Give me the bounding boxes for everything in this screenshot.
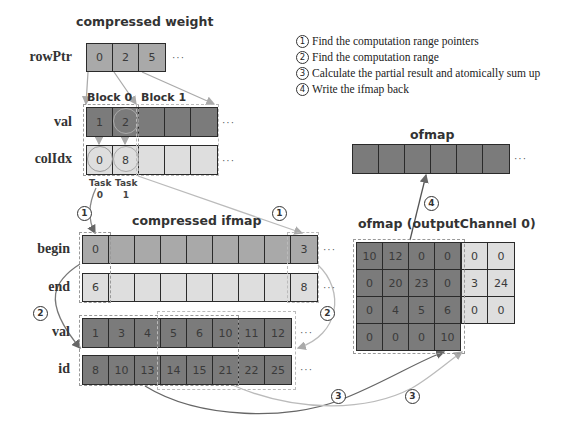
legend-item: 2Find the computation range <box>296 49 540 65</box>
legend-item: 4Write the ifmap back <box>296 81 540 97</box>
ifmap-val-cell: 3 <box>109 319 135 347</box>
compressed-weight-title: compressed weight <box>76 14 213 29</box>
end-label: end <box>10 279 70 295</box>
ofmap-channel-cell: 0 <box>462 297 488 324</box>
step-3-marker-task1: 3 <box>405 389 420 404</box>
end-cell <box>213 274 239 301</box>
step-1-icon: 1 <box>296 35 309 48</box>
weight-val-label: val <box>12 114 72 130</box>
rowptr-label: rowPtr <box>12 49 72 65</box>
step-1-marker-task0: 1 <box>77 206 92 221</box>
legend: 1Find the computation range pointers 2Fi… <box>296 33 540 97</box>
ofmap-cell <box>457 145 483 173</box>
end-cell: 8 <box>291 274 317 301</box>
ofmap-channel-cell: 0 <box>435 243 461 270</box>
ifmap-val-cell: 5 <box>161 319 187 347</box>
ofmap-title: ofmap <box>410 127 454 142</box>
ofmap-channel-cell: 4 <box>383 297 409 324</box>
ofmap-channel-cell: 10 <box>435 324 461 351</box>
ofmap-ellipsis: ··· <box>514 153 527 164</box>
ifmap-val-cell: 12 <box>265 319 291 347</box>
begin-cell <box>135 236 161 263</box>
begin-label: begin <box>10 241 70 257</box>
step-3-marker-task0: 3 <box>331 389 346 404</box>
ifmap-val-cell: 11 <box>239 319 265 347</box>
highlight-circle <box>113 146 139 172</box>
legend-text: Write the ifmap back <box>312 83 409 95</box>
id-array: 8 10 13 14 15 21 22 25 <box>82 355 292 385</box>
ofmap-channel-cell: 23 <box>409 270 435 297</box>
ofmap-channel-cell: 6 <box>435 297 461 324</box>
ofmap-channel-cell: 0 <box>435 270 461 297</box>
legend-text: Find the computation range <box>312 51 439 63</box>
task-0-line1: Task <box>89 178 111 188</box>
ofmap-channel-cell: 12 <box>383 243 409 270</box>
ofmap-channel-title: ofmap (outputChannel 0) <box>358 216 536 231</box>
task-1-label: Task 1 <box>115 178 137 200</box>
id-ellipsis: ··· <box>300 364 313 375</box>
begin-cell <box>213 236 239 263</box>
ofmap-channel-cell: 10 <box>357 243 383 270</box>
ofmap-channel-cell: 24 <box>488 270 514 297</box>
weight-val-cell <box>191 108 217 136</box>
end-cell <box>135 274 161 301</box>
step-2-marker-task0: 2 <box>33 306 48 321</box>
rowptr-cell: 5 <box>139 44 165 71</box>
weight-val-array: 1 2 <box>86 107 218 137</box>
ofmap-channel-grid-extra: 0 0 3 24 0 0 <box>461 242 515 324</box>
ofmap-cell <box>405 145 431 173</box>
begin-cell <box>265 236 291 263</box>
end-cell: 6 <box>83 274 109 301</box>
ifmap-val-ellipsis: ··· <box>300 327 313 338</box>
step-1-marker-task1: 1 <box>272 206 287 221</box>
colidx-cell <box>165 146 191 174</box>
colidx-label: colIdx <box>12 151 72 167</box>
weight-val-cell <box>165 108 191 136</box>
ofmap-cell <box>483 145 509 173</box>
ofmap-channel-cell: 5 <box>409 297 435 324</box>
id-cell: 8 <box>83 356 109 384</box>
task-0-label: Task 0 <box>89 178 111 200</box>
ifmap-val-cell: 4 <box>135 319 161 347</box>
begin-array: 0 3 <box>82 235 318 264</box>
step-4-icon: 4 <box>296 83 309 96</box>
end-cell <box>239 274 265 301</box>
ofmap-channel-cell: 3 <box>462 270 488 297</box>
begin-cell: 0 <box>83 236 109 263</box>
ofmap-channel-cell: 0 <box>409 324 435 351</box>
id-cell: 14 <box>161 356 187 384</box>
ofmap-channel-cell: 0 <box>357 270 383 297</box>
task-0-line2: 0 <box>89 190 111 200</box>
id-cell: 22 <box>239 356 265 384</box>
ofmap-cell <box>353 145 379 173</box>
ofmap-channel-cell: 20 <box>383 270 409 297</box>
begin-cell <box>239 236 265 263</box>
ifmap-val-label: val <box>10 324 70 340</box>
id-cell: 21 <box>213 356 239 384</box>
begin-cell <box>109 236 135 263</box>
ifmap-val-cell: 10 <box>213 319 239 347</box>
ifmap-val-cell: 6 <box>187 319 213 347</box>
id-label: id <box>10 361 70 377</box>
end-cell <box>187 274 213 301</box>
task-1-line2: 1 <box>115 190 137 200</box>
rowptr-array: 0 2 5 <box>86 43 166 72</box>
ofmap-cell <box>431 145 457 173</box>
end-cell <box>109 274 135 301</box>
highlight-circle <box>113 108 139 134</box>
end-ellipsis: ··· <box>323 282 336 293</box>
legend-text: Calculate the partial result and atomica… <box>312 67 540 79</box>
colidx-cell <box>191 146 217 174</box>
end-cell <box>161 274 187 301</box>
ofmap-channel-cell: 0 <box>462 243 488 270</box>
step-3-icon: 3 <box>296 67 309 80</box>
weight-val-ellipsis: ··· <box>222 117 235 128</box>
step-4-marker: 4 <box>424 196 439 211</box>
ofmap-cell <box>379 145 405 173</box>
id-cell: 25 <box>265 356 291 384</box>
end-array: 6 8 <box>82 273 318 302</box>
task-1-line1: Task <box>115 178 137 188</box>
ofmap-channel-cell: 0 <box>409 243 435 270</box>
block-1-label: Block 1 <box>141 91 186 104</box>
ofmap-channel-cell: 0 <box>488 297 514 324</box>
